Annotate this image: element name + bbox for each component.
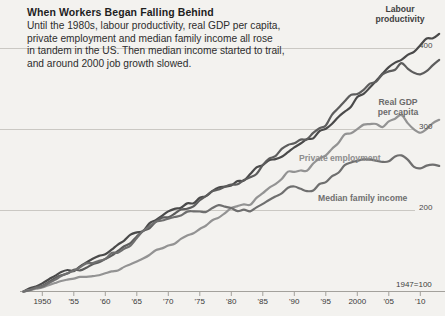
x-axis-tick-1955: '55 [69,297,79,306]
x-axis-tick-1995: '95 [321,297,331,306]
x-axis-tick-1975: '75 [195,297,205,306]
x-axis-tick-1985: '85 [258,297,268,306]
x-axis-tick-1990: '90 [289,297,299,306]
series-label-median-family-income: Median family income [318,193,407,203]
x-axis-tick-1960: '60 [100,297,110,306]
x-axis-tick-2000: 2000 [348,297,366,306]
x-axis-tick-1970: '70 [163,297,173,306]
page-title: When Workers Began Falling Behind [27,6,327,19]
x-axis-tick-2005: '05 [384,297,394,306]
series-label-labour-productivity: Labour productivity [360,4,440,24]
x-axis-tick-2010: '10 [415,297,425,306]
series-line-private-employment [23,115,439,292]
y-axis-tick-300: 300 [419,122,432,131]
series-label-private-employment: Private employment [299,153,381,163]
series-line-real-gdp-per-capita [23,60,439,292]
y-axis-tick-200: 200 [419,203,432,212]
x-axis-tick-1980: '80 [226,297,236,306]
chart-header: When Workers Began Falling Behind Until … [27,6,327,70]
series-label-real-gdp-per-capita: Real GDP per capita [355,97,441,117]
y-axis-tick-400: 400 [419,41,432,50]
x-axis-tick-1965: '65 [132,297,142,306]
chart-container: When Workers Began Falling Behind Until … [0,0,445,316]
series-line-median-family-income [23,155,439,291]
chart-subtitle: Until the 1980s, labour productivity, re… [27,20,327,70]
x-axis-tick-1950: 1950 [33,297,51,306]
base-index-note: 1947=100 [396,280,432,289]
